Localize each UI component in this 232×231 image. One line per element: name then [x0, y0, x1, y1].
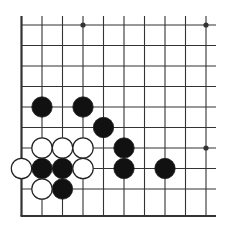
- black-stone: [32, 158, 52, 178]
- white-stone: [11, 158, 31, 178]
- star-point-icon: [203, 22, 208, 27]
- black-stone: [93, 117, 113, 137]
- white-stone: [73, 158, 93, 178]
- black-stone: [52, 179, 72, 199]
- black-stone: [155, 158, 175, 178]
- black-stone: [114, 158, 134, 178]
- white-stone: [52, 138, 72, 158]
- white-stone: [73, 138, 93, 158]
- go-board: [0, 0, 232, 231]
- star-point-icon: [80, 22, 85, 27]
- star-point-icon: [203, 145, 208, 150]
- white-stone: [32, 138, 52, 158]
- black-stone: [73, 97, 93, 117]
- black-stone: [32, 97, 52, 117]
- black-stone: [114, 138, 134, 158]
- black-stone: [52, 158, 72, 178]
- white-stone: [32, 179, 52, 199]
